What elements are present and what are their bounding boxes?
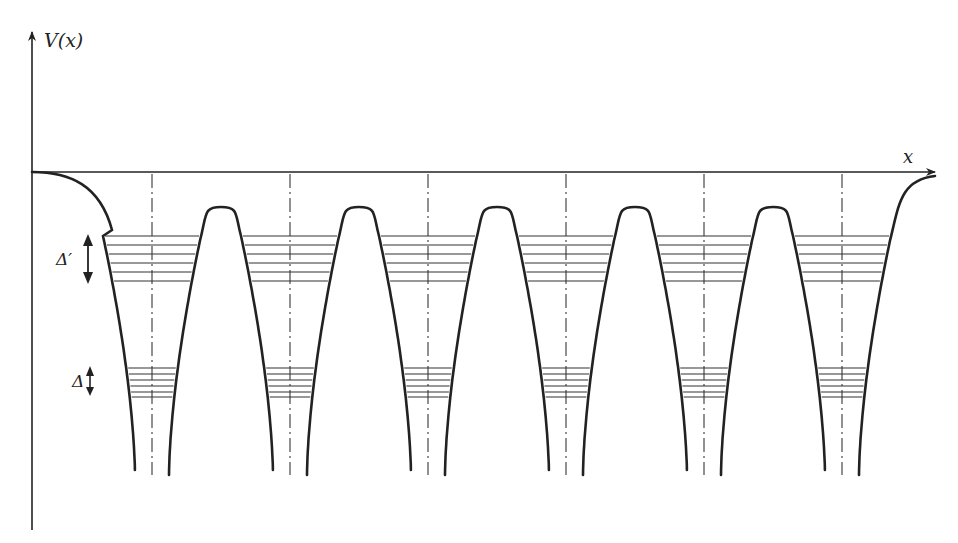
upper-band-label: Δ′	[55, 249, 72, 269]
potential-curve	[32, 172, 935, 475]
lower-band-label: Δ	[71, 371, 84, 391]
energy-band-levels	[105, 236, 889, 397]
periodic-potential-diagram: V(x) x Δ′ Δ	[0, 0, 958, 543]
y-axis-label: V(x)	[44, 29, 83, 51]
lower-band-indicator: Δ	[71, 366, 94, 396]
upper-band-indicator: Δ′	[55, 234, 93, 284]
x-axis-label: x	[903, 146, 913, 167]
well-center-lines	[152, 174, 842, 475]
